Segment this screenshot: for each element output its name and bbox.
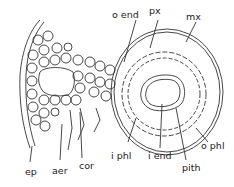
label-o-phl: o phl xyxy=(201,141,225,151)
label-mx: mx xyxy=(186,12,201,22)
label-i-end: i end xyxy=(148,151,172,161)
epidermis-outline xyxy=(20,20,40,148)
label-cor: cor xyxy=(79,161,94,171)
label-px: px xyxy=(149,6,161,16)
label-o-end: o end xyxy=(112,10,139,20)
label-i-phl: i phl xyxy=(111,151,131,161)
label-ep: ep xyxy=(25,167,37,177)
pith-outline xyxy=(146,79,180,106)
label-aer: aer xyxy=(52,166,68,176)
label-pith: pith xyxy=(182,163,200,173)
aerenchyma-cavity xyxy=(39,68,75,96)
